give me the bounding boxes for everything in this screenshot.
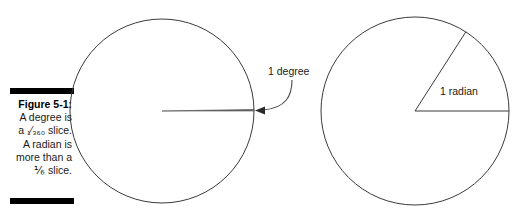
figure-page: Figure 5-1: A degree is a ₁⁄₃₆₀ slice. A… [0,0,528,208]
figure-drawing: 1 degree 1 radian [0,0,528,208]
degree-leader-line [263,80,292,110]
degree-circle-group: 1 degree [70,19,310,203]
radian-circle-group: 1 radian [321,17,509,205]
radian-label: 1 radian [440,85,478,97]
degree-arrowhead-icon [255,107,265,115]
degree-label: 1 degree [268,65,310,77]
degree-wedge [162,109,254,111]
radian-wedge [415,32,509,111]
